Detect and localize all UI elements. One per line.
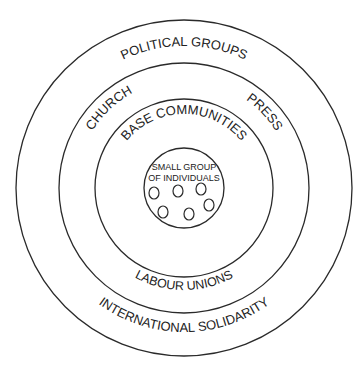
label-base-communities: BASE COMMUNITIES [118,102,251,143]
individuals [149,183,214,220]
ring-second [59,63,309,313]
individual-icon [196,183,206,195]
individual-icon [149,187,159,199]
individual-icon [158,206,168,218]
concentric-diagram: POLITICAL GROUPS CHURCH PRESS BASE COMMU… [0,0,364,377]
individual-icon [173,185,183,197]
label-labour-unions: LABOUR UNIONS [133,267,235,293]
label-press: PRESS [244,90,286,133]
label-international-solidarity: INTERNATIONAL SOLIDARITY [96,294,271,335]
ring-third [95,99,273,277]
label-small-group-line1: SMALL GROUP [152,162,217,172]
individual-icon [204,199,214,211]
label-political-groups: POLITICAL GROUPS [118,34,250,63]
ring-outer [16,20,352,356]
individual-icon [184,208,194,220]
label-small-group-line2: OF INDIVIDUALS [148,173,220,183]
